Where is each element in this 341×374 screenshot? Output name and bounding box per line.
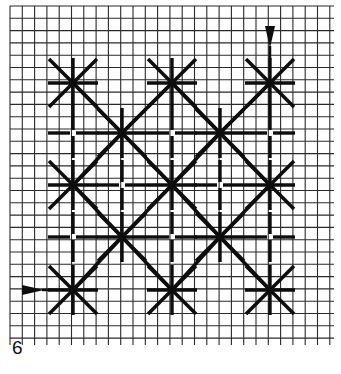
cross-stitch — [245, 108, 295, 158]
stitch-diagram — [0, 0, 341, 374]
star-stitch — [147, 160, 197, 210]
cross-stitch — [245, 212, 295, 262]
start-arrow-top-icon — [265, 26, 275, 48]
star-stitch — [195, 108, 245, 158]
star-stitch — [48, 265, 98, 315]
star-stitch — [48, 58, 98, 108]
star-stitch — [245, 58, 295, 108]
star-stitch — [147, 58, 197, 108]
cross-stitch — [147, 212, 197, 262]
cross-stitch — [147, 108, 197, 158]
cross-stitch — [48, 212, 98, 262]
star-stitch — [97, 108, 147, 158]
star-stitches — [48, 58, 295, 315]
cross-stitch — [48, 108, 98, 158]
star-stitch — [147, 265, 197, 315]
star-stitch — [97, 212, 147, 262]
star-stitch — [195, 212, 245, 262]
figure-number: 6 — [12, 338, 23, 357]
star-stitch — [245, 265, 295, 315]
start-arrow-left-icon — [22, 285, 44, 295]
star-stitch — [48, 160, 98, 210]
star-stitch — [245, 160, 295, 210]
